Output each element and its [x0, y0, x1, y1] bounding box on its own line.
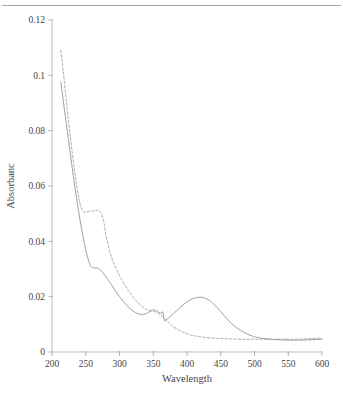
- x-axis-title: Wavelength: [162, 373, 213, 384]
- y-tick-label-5: 0.1: [33, 71, 45, 81]
- figure-container: 200250300350400450500550600 00.020.040.0…: [0, 0, 343, 395]
- y-tick-label-0: 0: [40, 347, 45, 357]
- y-tick-label-2: 0.04: [28, 237, 45, 247]
- x-tick-label-8: 600: [315, 359, 330, 369]
- y-axis-title: Absorbanc: [5, 163, 16, 209]
- y-tick-label-1: 0.02: [28, 292, 45, 302]
- x-tick-label-3: 350: [146, 359, 161, 369]
- y-tick-label-4: 0.08: [28, 126, 45, 136]
- x-tick-label-2: 300: [112, 359, 127, 369]
- x-tick-label-4: 400: [180, 359, 195, 369]
- y-tick-labels-group: 00.020.040.060.080.10.12: [28, 15, 45, 357]
- y-tick-label-3: 0.06: [28, 181, 45, 191]
- tick-marks-group: [49, 20, 323, 356]
- x-tick-label-5: 450: [214, 359, 229, 369]
- x-tick-label-1: 250: [79, 359, 94, 369]
- y-tick-label-6: 0.12: [28, 15, 45, 25]
- x-tick-label-7: 550: [281, 359, 296, 369]
- x-tick-labels-group: 200250300350400450500550600: [45, 359, 330, 369]
- x-tick-label-0: 200: [45, 359, 60, 369]
- x-tick-label-6: 500: [247, 359, 262, 369]
- series-line-dashed-spectrum: [61, 50, 322, 339]
- data-series-group: [61, 50, 322, 340]
- absorbance-spectrum-chart: 200250300350400450500550600 00.020.040.0…: [0, 0, 343, 395]
